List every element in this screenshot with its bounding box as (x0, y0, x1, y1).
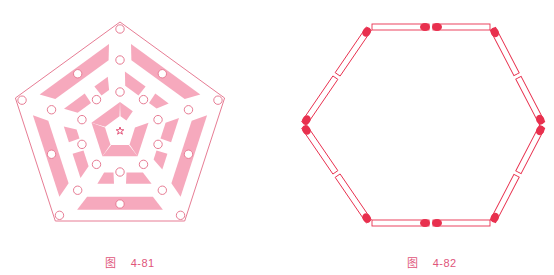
junction-circle (176, 211, 184, 219)
figure-label: 图 (407, 257, 419, 270)
junction-circle (78, 115, 86, 123)
matchstick (334, 173, 372, 224)
pentagon-maze-figure (15, 22, 224, 221)
diagram-canvas (0, 0, 554, 275)
middle-ring-segment (64, 127, 80, 143)
junction-circle (55, 211, 63, 219)
junction-circle (78, 140, 86, 148)
junction-circle (214, 96, 222, 104)
junction-circle (92, 95, 100, 103)
matchstick (489, 26, 520, 76)
matchstick (372, 219, 430, 227)
junction-circle (47, 150, 55, 158)
matchstick-hexagon-figure (300, 23, 546, 227)
matchstick (372, 23, 430, 31)
figure-caption-4-81: 图4-81 (98, 242, 155, 270)
middle-ring-segment (73, 151, 89, 179)
matchstick (489, 174, 520, 224)
match-head (420, 23, 430, 31)
middle-ring-segment (161, 118, 180, 142)
junction-circle (139, 160, 147, 168)
middle-ring-segment (64, 94, 91, 113)
junction-circle (116, 200, 124, 208)
star-icon (116, 127, 124, 134)
middle-ring-segment (125, 72, 146, 96)
matchstick (300, 124, 338, 175)
junction-circle (158, 70, 166, 78)
matchstick (300, 75, 338, 126)
junction-circle (154, 115, 162, 123)
junction-circle (47, 106, 55, 114)
junction-circle (116, 88, 124, 96)
matchstick (334, 26, 372, 77)
match-head (432, 23, 442, 31)
junction-circle (116, 25, 124, 33)
junction-circle (92, 160, 100, 168)
middle-ring-segment (126, 173, 152, 184)
match-head (432, 219, 442, 227)
junction-circle (139, 95, 147, 103)
matchstick (432, 219, 490, 227)
figure-number: 4-81 (131, 257, 155, 269)
figure-number: 4-82 (433, 257, 457, 269)
junction-circle (18, 96, 26, 104)
junction-circle (158, 186, 166, 194)
middle-ring-segment (97, 173, 114, 184)
figure-caption-4-82: 图4-82 (400, 242, 457, 270)
junction-circle (73, 186, 81, 194)
middle-ring-segment (154, 151, 168, 170)
junction-circle (184, 150, 192, 158)
figure-label: 图 (105, 257, 117, 270)
junction-circle (73, 70, 81, 78)
matchstick (432, 23, 490, 31)
middle-ring-segment (94, 77, 109, 96)
matchstick (515, 124, 546, 174)
junction-circle (116, 168, 124, 176)
junction-circle (116, 56, 124, 64)
inner-ring-segment (120, 102, 133, 121)
matchstick (515, 76, 546, 126)
junction-circle (184, 106, 192, 114)
inner-ring-segment (92, 102, 121, 127)
match-head (420, 219, 430, 227)
junction-circle (154, 140, 162, 148)
middle-ring-segment (149, 94, 169, 109)
